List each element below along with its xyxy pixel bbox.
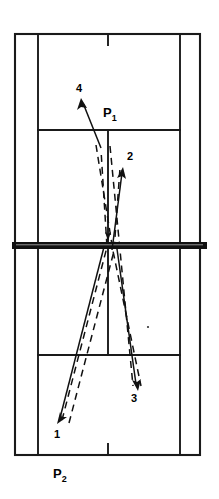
player-label-p2-subscript: 2: [62, 474, 67, 484]
shot-3-shaft: [117, 249, 136, 384]
net-mesh-stripe: [16, 244, 203, 245]
shot-label-4: 4: [76, 82, 83, 94]
player-label-p1-letter: P: [103, 105, 112, 120]
print-speck: [147, 326, 149, 328]
shot-label-2: 2: [127, 150, 133, 162]
shot-1-arrowhead-icon: [57, 412, 67, 424]
rally-path-a: [62, 150, 107, 420]
shot-arrows: [57, 98, 141, 424]
net: [12, 242, 207, 249]
shot-4-shaft: [83, 103, 101, 148]
rally-path-b: [69, 168, 120, 423]
shot-label-1: 1: [54, 428, 60, 440]
shot-1-shaft: [60, 247, 104, 418]
court-diagram: 4 2 3 1 P1 P2: [0, 0, 219, 499]
player-label-p1-subscript: 1: [112, 113, 117, 123]
net-band: [12, 242, 207, 249]
shot-trajectories: [62, 145, 141, 423]
player-label-p2: P2: [53, 466, 67, 484]
shot-label-3: 3: [131, 392, 137, 404]
player-label-p1: P1: [103, 105, 117, 123]
player-label-p2-letter: P: [53, 466, 62, 481]
